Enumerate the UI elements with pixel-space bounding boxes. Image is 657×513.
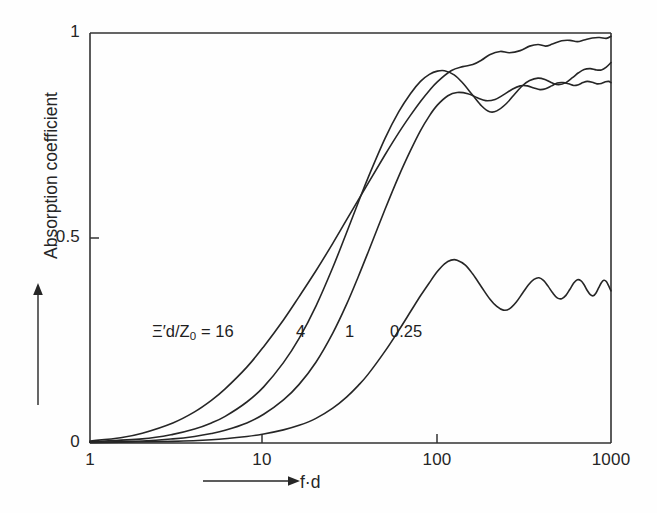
y-tick-label-1: 1: [58, 22, 80, 42]
plot-canvas: [0, 0, 657, 513]
curve-series-0.25: [90, 260, 611, 443]
series-legend-value: = 16: [201, 322, 234, 340]
x-tick-label-10: 10: [240, 450, 284, 470]
series-label-1: 1: [345, 322, 354, 341]
series-label-16: Ξ′d/Z0= 16: [152, 322, 234, 342]
x-tick-label-1: 1: [72, 450, 108, 470]
x-axis-title: f·d: [300, 472, 320, 493]
axis-ticks: [90, 238, 437, 443]
x-tick-label-100: 100: [411, 450, 463, 470]
plot-frame: [90, 33, 611, 443]
curve-series-4: [90, 63, 611, 442]
x-tick-label-1000: 1000: [580, 450, 642, 470]
curve-series-1: [90, 81, 611, 442]
plot-frame-path: [90, 33, 611, 443]
series-label-0.25: 0.25: [390, 322, 422, 341]
x-axis-arrowhead: [288, 476, 300, 486]
series-label-4: 4: [296, 322, 305, 341]
data-curves: [90, 36, 611, 442]
y-tick-label-0: 0: [58, 432, 80, 452]
y-axis-title: Absorption coefficient: [41, 61, 62, 291]
series-legend-prefix: Ξ′d/Z: [152, 322, 190, 340]
figure-absorption-coefficient: 1 0.5 0 1 10 100 1000 Absorption coeffic…: [0, 0, 657, 513]
curve-series-16: [90, 36, 611, 441]
series-legend-subscript: 0: [190, 330, 196, 342]
